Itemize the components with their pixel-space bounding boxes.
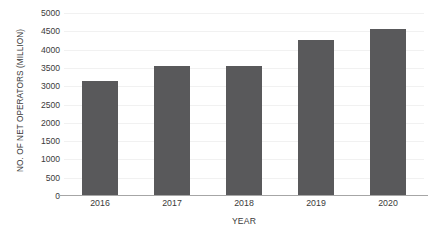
x-axis-tick-label: 2020 xyxy=(352,198,424,208)
bar-2017[interactable] xyxy=(154,66,190,196)
x-axis-tick-label: 2018 xyxy=(208,198,280,208)
x-axis-title: YEAR xyxy=(64,216,424,226)
y-axis-tick-label: 2000 xyxy=(26,118,60,128)
y-axis-tick-label: 0 xyxy=(26,191,60,201)
bar-slot xyxy=(208,13,280,196)
y-axis-tick-label: 5000 xyxy=(26,8,60,18)
bar-chart: NO. OF NET OPERATORS (MILLION) 050010001… xyxy=(0,0,435,236)
y-axis-tick-label: 4500 xyxy=(26,26,60,36)
bar-slot xyxy=(136,13,208,196)
x-axis-line xyxy=(58,195,428,196)
y-axis-tick-labels: 0500100015002000250030003500400045005000 xyxy=(26,13,60,196)
bar-2020[interactable] xyxy=(370,29,406,196)
bar-2019[interactable] xyxy=(298,40,334,196)
bar-slot xyxy=(64,13,136,196)
x-axis-tick-label: 2019 xyxy=(280,198,352,208)
y-axis-tick-label: 500 xyxy=(26,173,60,183)
y-axis-tick-label: 1500 xyxy=(26,136,60,146)
y-axis-tick-label: 1000 xyxy=(26,154,60,164)
bar-slot xyxy=(280,13,352,196)
y-axis-tick-label: 4000 xyxy=(26,45,60,55)
y-axis-tick-label: 3500 xyxy=(26,63,60,73)
y-axis-tick-label: 3000 xyxy=(26,81,60,91)
x-axis-tick-label: 2017 xyxy=(136,198,208,208)
bar-2018[interactable] xyxy=(226,66,262,196)
y-axis-tick-label: 2500 xyxy=(26,100,60,110)
bars-layer xyxy=(64,13,424,196)
plot-area xyxy=(64,13,424,196)
x-axis-tick-labels: 20162017201820192020 xyxy=(64,198,424,214)
bar-2016[interactable] xyxy=(82,81,118,196)
x-axis-tick-label: 2016 xyxy=(64,198,136,208)
bar-slot xyxy=(352,13,424,196)
y-axis-title: NO. OF NET OPERATORS (MILLION) xyxy=(16,6,25,196)
